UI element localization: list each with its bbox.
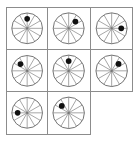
spoked-wheel-icon — [48, 8, 89, 49]
black-dot-marker — [73, 19, 79, 25]
spoked-wheel-icon — [91, 50, 132, 92]
matrix-reasoning-figure — [0, 0, 139, 148]
wheel-hub — [110, 27, 112, 29]
black-dot-marker — [118, 25, 124, 31]
matrix-cell — [48, 50, 90, 93]
matrix-cell — [6, 92, 48, 135]
wheel-hub — [68, 70, 70, 72]
wheel-hub — [26, 112, 28, 114]
wheel-hub — [68, 27, 70, 29]
black-dot-marker — [59, 103, 65, 109]
spoked-wheel-icon — [91, 8, 132, 49]
matrix-cell — [48, 7, 90, 50]
spoked-wheel-icon — [7, 50, 47, 92]
wheel-hub — [110, 70, 112, 72]
spoked-wheel-icon — [48, 92, 89, 134]
black-dot-marker — [66, 58, 72, 64]
matrix-cell — [91, 50, 133, 93]
spoked-wheel-icon — [7, 92, 47, 134]
wheel-hub — [26, 27, 28, 29]
black-dot-marker — [18, 61, 24, 67]
black-dot-marker — [24, 16, 30, 22]
matrix-cell — [91, 7, 133, 50]
matrix-cell-blank — [91, 92, 133, 135]
spoked-wheel-icon — [7, 8, 47, 49]
black-dot-marker — [15, 110, 21, 116]
spoked-wheel-icon — [48, 50, 89, 92]
matrix-cell — [6, 7, 48, 50]
matrix-cell — [6, 50, 48, 93]
wheel-hub — [26, 70, 28, 72]
wheel-hub — [68, 112, 70, 114]
matrix-grid — [6, 7, 133, 135]
matrix-cell — [48, 92, 90, 135]
black-dot-marker — [115, 61, 121, 67]
